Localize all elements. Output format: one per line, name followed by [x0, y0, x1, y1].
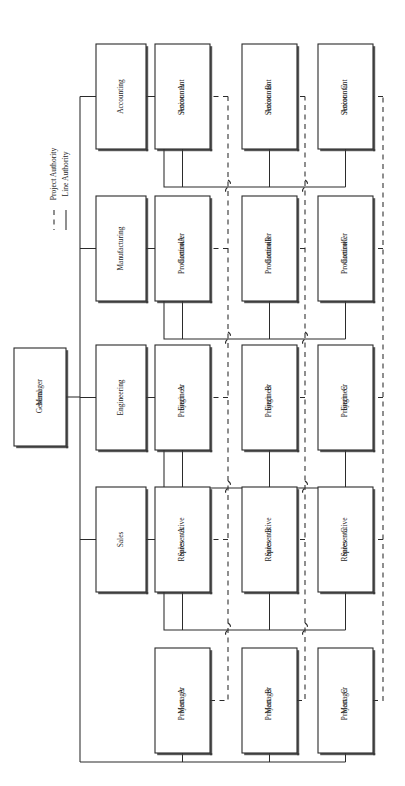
- box-label-line: C: [340, 528, 349, 533]
- legend-label: Line Authority: [61, 151, 70, 196]
- box-label-line: Accountant: [177, 79, 186, 114]
- box-pm-c[interactable]: ProjectManagerC: [318, 648, 375, 755]
- box-sa-a[interactable]: SeniorAccountantA: [155, 44, 212, 151]
- box-label-line: B: [264, 85, 273, 90]
- org-chart-canvas: GeneralManagerAccountingManufacturingEng…: [0, 0, 405, 786]
- box-label-line: Representative: [264, 517, 273, 562]
- box-label-line: Sales: [116, 532, 125, 548]
- box-function-manufacturing[interactable]: Manufacturing: [96, 196, 148, 303]
- box-sa-b[interactable]: SeniorAccountantB: [242, 44, 299, 151]
- box-function-sales[interactable]: Sales: [96, 487, 148, 594]
- org-chart-svg: GeneralManagerAccountingManufacturingEng…: [0, 0, 405, 786]
- box-label-line: A: [177, 84, 186, 90]
- box-pm-a[interactable]: ProjectManagerA: [155, 648, 212, 755]
- box-label-line: Representative: [340, 517, 349, 562]
- box-label-line: B: [264, 386, 273, 391]
- box-sr-c[interactable]: SalesRepresentativeC: [318, 487, 375, 594]
- box-label-line: C: [340, 237, 349, 242]
- legend-entry: Line Authority: [61, 151, 70, 230]
- box-label-line: C: [340, 689, 349, 694]
- box-label-line: Manager: [35, 379, 44, 406]
- box-label-line: A: [177, 527, 186, 533]
- box-pe-c[interactable]: ProjectEngineerC: [318, 345, 375, 452]
- box-label-line: Accounting: [116, 79, 125, 114]
- box-pe-a[interactable]: ProjectEngineerA: [155, 345, 212, 452]
- box-sa-c[interactable]: SeniorAccountantC: [318, 44, 375, 151]
- box-label-line: A: [177, 385, 186, 391]
- box-sr-a[interactable]: SalesRepresentativeA: [155, 487, 212, 594]
- box-function-engineering[interactable]: Engineering: [96, 345, 148, 452]
- legend-label: Project Authority: [49, 148, 58, 201]
- box-label-line: C: [340, 85, 349, 90]
- legend-entry: Project Authority: [49, 148, 58, 230]
- box-label-line: A: [177, 688, 186, 694]
- box-label-line: A: [177, 236, 186, 242]
- box-label-line: B: [264, 689, 273, 694]
- legend: Line AuthorityProject Authority: [49, 148, 70, 230]
- org-boxes: GeneralManagerAccountingManufacturingEng…: [14, 44, 375, 755]
- box-function-accounting[interactable]: Accounting: [96, 44, 148, 151]
- box-label-line: B: [264, 237, 273, 242]
- box-pe-b[interactable]: ProjectEngineerB: [242, 345, 299, 452]
- box-label-line: Representative: [177, 517, 186, 562]
- box-label-line: Accountant: [264, 79, 273, 114]
- box-sr-b[interactable]: SalesRepresentativeB: [242, 487, 299, 594]
- box-label-line: Engineering: [116, 379, 125, 415]
- box-general-manager[interactable]: GeneralManager: [14, 348, 68, 448]
- box-label-line: C: [340, 386, 349, 391]
- box-label-line: Manufacturing: [116, 226, 125, 270]
- box-pc-c[interactable]: ProductionControllerC: [318, 196, 375, 303]
- box-label-line: Accountant: [340, 79, 349, 114]
- box-pc-a[interactable]: ProductionControllerA: [155, 196, 212, 303]
- box-label-line: B: [264, 528, 273, 533]
- box-pm-b[interactable]: ProjectManagerB: [242, 648, 299, 755]
- box-pc-b[interactable]: ProductionControllerB: [242, 196, 299, 303]
